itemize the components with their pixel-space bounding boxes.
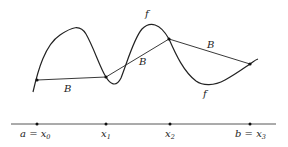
axis-point-0 <box>36 123 39 126</box>
axis-label-x0: a = x0 <box>20 128 50 141</box>
label-f-bottom: f <box>202 88 209 99</box>
axis-point-2 <box>169 123 172 126</box>
label-b-2: B <box>138 56 146 67</box>
label-b-3: B <box>206 39 214 50</box>
axis-label-x2: x2 <box>165 128 175 141</box>
label-f-top: f <box>144 8 151 19</box>
node-point-1 <box>104 75 107 78</box>
diagram-canvas: f f B B B a = x0 x1 x2 b = x3 <box>0 0 288 147</box>
axis-label-x3: b = x3 <box>235 128 266 141</box>
axis-point-3 <box>249 123 252 126</box>
axis-point-1 <box>105 123 108 126</box>
node-point-3 <box>248 62 251 65</box>
node-point-2 <box>167 37 170 40</box>
axis-label-x1: x1 <box>101 128 111 141</box>
node-point-0 <box>35 78 38 81</box>
label-b-1: B <box>63 83 71 94</box>
